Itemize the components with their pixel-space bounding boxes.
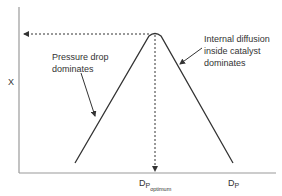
pressure-drop-arrow <box>81 73 95 116</box>
y-axis-label: X <box>8 77 14 88</box>
right-annotation-line1: Internal diffusion <box>204 34 270 45</box>
left-annotation-line1: Pressure drop <box>52 52 109 63</box>
right-annotation-line3: dominates <box>204 58 246 69</box>
x-axis-label: DP <box>228 178 239 189</box>
internal-diffusion-arrow <box>180 48 202 64</box>
x-axis-label-sub: P <box>235 182 240 189</box>
optimum-label: DPoptimum <box>139 178 171 190</box>
optimum-label-main: D <box>139 178 146 188</box>
right-annotation-line2: inside catalyst <box>204 46 261 57</box>
diagram-canvas <box>0 0 282 196</box>
left-annotation-line2: dominates <box>52 64 94 75</box>
optimum-label-subsub: optimum <box>150 186 171 192</box>
x-axis-label-main: D <box>228 178 235 188</box>
